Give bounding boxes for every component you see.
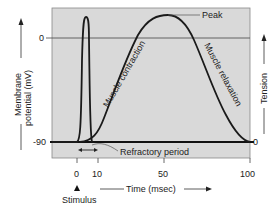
arrow-right-icon <box>206 187 212 192</box>
right-tick-0: 0 <box>253 137 258 147</box>
stimulus-label: Stimulus <box>62 195 97 205</box>
xtick-10: 10 <box>92 169 102 179</box>
twitch-diagram: Peak Muscle contraction Muscle relaxatio… <box>0 0 278 211</box>
arrow-up-icon <box>262 34 267 41</box>
x-axis-label: Time (msec) <box>126 184 176 194</box>
xtick-50: 50 <box>158 169 168 179</box>
arrow-up-icon <box>19 18 24 25</box>
ytick-minus90: -90 <box>33 137 46 147</box>
xtick-0: 0 <box>74 169 79 179</box>
stimulus-triangle-icon <box>74 185 80 191</box>
left-axis-label-line1: Membrane <box>13 73 23 116</box>
peak-label: Peak <box>202 10 223 20</box>
xtick-100: 100 <box>240 169 255 179</box>
left-axis-label-line2: potential (mV) <box>23 70 33 126</box>
ytick-0: 0 <box>39 33 44 43</box>
right-axis-label: Tension <box>259 73 269 104</box>
refractory-label: Refractory period <box>120 147 189 157</box>
